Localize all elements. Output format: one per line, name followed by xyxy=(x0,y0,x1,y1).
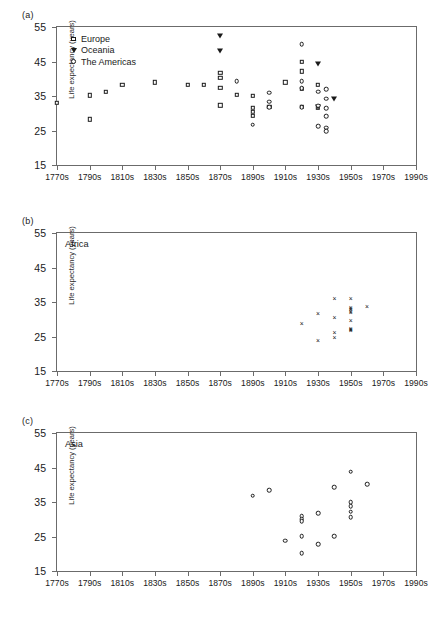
triangle-down-marker xyxy=(217,49,223,54)
circle-icon xyxy=(67,59,80,64)
circle-marker xyxy=(332,485,337,490)
x-axis-tick xyxy=(416,371,417,376)
x-axis-tick-label: 1970s xyxy=(372,578,395,588)
x-axis-tick xyxy=(383,571,384,576)
triangle-down-marker xyxy=(315,61,321,66)
square-marker xyxy=(300,60,304,64)
legend-item-oceania: Oceania xyxy=(67,45,136,57)
x-axis-tick xyxy=(57,371,58,376)
x-axis-tick-label: 1790s xyxy=(78,378,101,388)
square-marker xyxy=(87,93,91,97)
circle-marker xyxy=(316,90,321,95)
triangle-down-marker xyxy=(217,33,223,38)
x-axis-tick-label: 1930s xyxy=(306,578,329,588)
x-axis-tick-label: 1870s xyxy=(208,578,231,588)
square-marker xyxy=(185,83,189,87)
x-axis-tick-label: 1770s xyxy=(45,172,68,182)
panel-a-legend: Europe Oceania The Americas xyxy=(67,33,136,68)
x-axis-tick xyxy=(57,165,58,170)
cross-marker xyxy=(348,296,353,301)
x-axis-tick xyxy=(318,165,319,170)
x-axis-tick xyxy=(188,571,189,576)
circle-marker xyxy=(324,96,329,101)
square-marker xyxy=(316,83,320,87)
x-axis-tick-label: 1830s xyxy=(143,172,166,182)
circle-marker xyxy=(348,515,353,520)
y-axis-tick: 25 xyxy=(52,131,57,132)
x-axis-tick-label: 1930s xyxy=(306,378,329,388)
circle-marker xyxy=(316,124,321,129)
x-axis-tick-label: 1870s xyxy=(208,378,231,388)
y-axis-tick: 45 xyxy=(52,468,57,469)
triangle-down-icon xyxy=(67,48,80,53)
y-axis-tick: 45 xyxy=(52,62,57,63)
circle-marker xyxy=(267,90,272,95)
y-axis-tick: 25 xyxy=(52,337,57,338)
y-axis-tick-label: 35 xyxy=(34,496,46,508)
x-axis-tick xyxy=(188,371,189,376)
square-marker xyxy=(283,80,287,84)
x-axis-tick-label: 1890s xyxy=(241,378,264,388)
x-axis-tick-label: 1990s xyxy=(404,578,427,588)
x-axis-tick xyxy=(155,371,156,376)
y-axis-tick-label: 55 xyxy=(34,227,46,239)
circle-marker xyxy=(324,106,329,111)
square-marker xyxy=(251,94,255,98)
circle-marker xyxy=(267,100,272,105)
square-marker xyxy=(218,76,222,80)
x-axis-tick-label: 1950s xyxy=(339,578,362,588)
x-axis-tick-label: 1850s xyxy=(176,378,199,388)
x-axis-tick xyxy=(318,371,319,376)
circle-marker xyxy=(251,493,256,498)
x-axis-tick-label: 1770s xyxy=(45,578,68,588)
circle-marker xyxy=(251,122,256,127)
panel-c-letter: (c) xyxy=(22,416,33,426)
circle-marker xyxy=(365,482,370,487)
y-axis-tick-label: 25 xyxy=(34,331,46,343)
x-axis-tick-label: 1870s xyxy=(208,172,231,182)
circle-marker xyxy=(324,87,329,92)
x-axis-tick-label: 1910s xyxy=(274,578,297,588)
y-axis-tick: 35 xyxy=(52,302,57,303)
cross-marker xyxy=(315,338,320,343)
cross-marker xyxy=(315,311,320,316)
circle-marker xyxy=(299,519,304,524)
circle-marker xyxy=(299,534,304,539)
life-expectancy-figure: (a) Life expectancy (years) Europe Ocean… xyxy=(0,0,444,620)
y-axis-tick-label: 25 xyxy=(34,125,46,137)
circle-marker xyxy=(283,538,288,543)
x-axis-tick-label: 1850s xyxy=(176,578,199,588)
legend-label-oceania: Oceania xyxy=(81,45,115,55)
square-marker xyxy=(218,70,222,74)
x-axis-tick xyxy=(253,165,254,170)
cross-marker xyxy=(364,304,369,309)
cross-marker xyxy=(348,310,353,315)
x-axis-tick xyxy=(318,571,319,576)
circle-marker xyxy=(299,551,304,556)
cross-marker xyxy=(299,322,304,327)
circle-marker xyxy=(267,488,272,493)
x-axis-tick-label: 1950s xyxy=(339,172,362,182)
x-axis-tick-label: 1810s xyxy=(111,172,134,182)
square-marker xyxy=(120,83,124,87)
y-axis-tick-label: 35 xyxy=(34,296,46,308)
y-axis-tick: 55 xyxy=(52,233,57,234)
y-axis-tick: 45 xyxy=(52,268,57,269)
y-axis-tick-label: 15 xyxy=(34,565,46,577)
x-axis-tick xyxy=(285,165,286,170)
square-marker xyxy=(218,103,222,107)
y-axis-tick-label: 45 xyxy=(34,56,46,68)
x-axis-tick-label: 1810s xyxy=(111,378,134,388)
cross-marker xyxy=(332,315,337,320)
circle-marker xyxy=(316,542,321,547)
x-axis-tick xyxy=(416,571,417,576)
panel-c-plot-area: Life expectancy (years) Asia 15253545551… xyxy=(56,432,417,572)
x-axis-tick xyxy=(220,371,221,376)
panel-a: (a) Life expectancy (years) Europe Ocean… xyxy=(0,8,444,208)
circle-marker xyxy=(299,86,304,91)
x-axis-tick-label: 1990s xyxy=(404,172,427,182)
x-axis-tick xyxy=(253,371,254,376)
panel-b-y-axis-label: Life expectancy (years) xyxy=(67,206,76,326)
y-axis-tick-label: 45 xyxy=(34,462,46,474)
panel-b: (b) Life expectancy (years) Africa 15253… xyxy=(0,214,444,414)
